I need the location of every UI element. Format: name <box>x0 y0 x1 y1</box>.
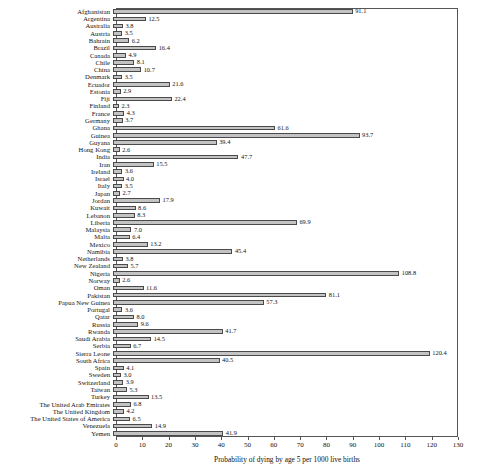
bar-value-label: 14.9 <box>155 423 166 429</box>
bar-track: 40.5 <box>113 357 479 364</box>
bar-value-label: 108.8 <box>402 270 416 276</box>
bar-row: Fiji22.4 <box>0 95 479 102</box>
category-label: Sierra Leone <box>0 350 113 357</box>
bar-row: Australia3.8 <box>0 23 479 30</box>
bar-track: 11.6 <box>113 284 479 291</box>
category-label: Australia <box>0 22 113 29</box>
bar-row: Papua New Guinea57.3 <box>0 299 479 306</box>
bar-row: Rwanda41.7 <box>0 328 479 335</box>
bar-value-label: 4.2 <box>127 408 135 414</box>
bar-row: Chile8.1 <box>0 59 479 66</box>
bar-track: 21.6 <box>113 81 479 88</box>
bar-row: Ecuador21.6 <box>0 81 479 88</box>
bar-track: 2.6 <box>113 277 479 284</box>
bar-row: Japan2.7 <box>0 190 479 197</box>
bar <box>113 198 160 203</box>
bar-value-label: 81.1 <box>329 292 340 298</box>
category-label: The United States of America <box>0 415 113 422</box>
bar <box>113 300 264 305</box>
x-axis-tick-label: 50 <box>244 441 251 449</box>
bar-value-label: 8.1 <box>137 59 145 65</box>
bar-track: 4.1 <box>113 364 479 371</box>
bar-value-label: 61.6 <box>278 125 289 131</box>
bar <box>113 264 128 269</box>
bar <box>113 402 131 407</box>
bar-track: 45.4 <box>113 248 479 255</box>
bar-row: The United States of America6.5 <box>0 415 479 422</box>
x-axis-tick-label: 20 <box>165 441 172 449</box>
bar-row: Austria3.5 <box>0 30 479 37</box>
bar <box>113 184 122 189</box>
bar-value-label: 17.9 <box>163 197 174 203</box>
bar-row: Saudi Arabia14.5 <box>0 335 479 342</box>
bar-value-label: 2.7 <box>123 190 131 196</box>
bar-track: 3.6 <box>113 168 479 175</box>
x-axis-tick <box>274 437 275 440</box>
bar-row: Netherlands3.8 <box>0 255 479 262</box>
bar-value-label: 11.6 <box>146 285 157 291</box>
x-axis-tick <box>432 437 433 440</box>
bar <box>113 46 156 51</box>
bar <box>113 67 141 72</box>
bar-row: India47.7 <box>0 153 479 160</box>
bar <box>113 366 124 371</box>
bar-row: China10.7 <box>0 66 479 73</box>
bar <box>113 24 123 29</box>
category-label: France <box>0 110 113 117</box>
bar-value-label: 39.4 <box>219 139 230 145</box>
bar-track: 6.4 <box>113 233 479 240</box>
bar-row: Ghana61.6 <box>0 124 479 131</box>
bar-row: Argentina12.5 <box>0 15 479 22</box>
bar-value-label: 91.1 <box>355 8 366 14</box>
bar <box>113 373 121 378</box>
bar-row: Pakistan81.1 <box>0 292 479 299</box>
bar <box>113 38 129 43</box>
bar-track: 2.9 <box>113 88 479 95</box>
bar <box>113 344 131 349</box>
bar <box>113 424 152 429</box>
x-axis-tick <box>169 437 170 440</box>
bar-row: Norway2.6 <box>0 277 479 284</box>
bar-row: Oman11.6 <box>0 284 479 291</box>
category-label: Turkey <box>0 393 113 400</box>
bar <box>113 315 134 320</box>
bar <box>113 118 123 123</box>
bar <box>113 337 151 342</box>
bar-value-label: 6.5 <box>133 416 141 422</box>
bar-value-label: 41.9 <box>226 430 237 436</box>
bar <box>113 417 130 422</box>
bar-track: 57.3 <box>113 299 479 306</box>
bar-rows: Afghanistan91.1Argentina12.5Australia3.8… <box>0 8 479 437</box>
category-label: Rwanda <box>0 328 113 335</box>
bar-track: 3.0 <box>113 372 479 379</box>
x-axis-tick-label: 80 <box>323 441 330 449</box>
x-axis: 0102030405060708090100110120130 <box>116 437 458 457</box>
bar-value-label: 41.7 <box>225 328 236 334</box>
bar-row: Spain4.1 <box>0 364 479 371</box>
bar <box>113 387 127 392</box>
bar-row: Israel4.0 <box>0 175 479 182</box>
x-axis-title: Probability of dying by age 5 per 1000 l… <box>116 455 458 464</box>
bar-track: 2.6 <box>113 146 479 153</box>
x-axis-tick-label: 0 <box>114 441 118 449</box>
bar-track: 61.6 <box>113 124 479 131</box>
category-label: Hong Kong <box>0 146 113 153</box>
bar-row: Denmark3.5 <box>0 73 479 80</box>
bar <box>113 147 120 152</box>
bar <box>113 89 121 94</box>
bar-track: 3.6 <box>113 306 479 313</box>
bar <box>113 351 430 356</box>
bar-track: 39.4 <box>113 139 479 146</box>
bar <box>113 177 124 182</box>
x-axis-tick-label: 70 <box>297 441 304 449</box>
bar-track: 5.3 <box>113 386 479 393</box>
bar <box>113 307 122 312</box>
bar-track: 41.7 <box>113 328 479 335</box>
bar <box>113 220 297 225</box>
bar-value-label: 45.4 <box>235 248 246 254</box>
bar-track: 3.5 <box>113 30 479 37</box>
bar <box>113 60 134 65</box>
bar-row: Yemen41.9 <box>0 430 479 437</box>
bar-value-label: 6.2 <box>132 38 140 44</box>
bar <box>113 53 126 58</box>
